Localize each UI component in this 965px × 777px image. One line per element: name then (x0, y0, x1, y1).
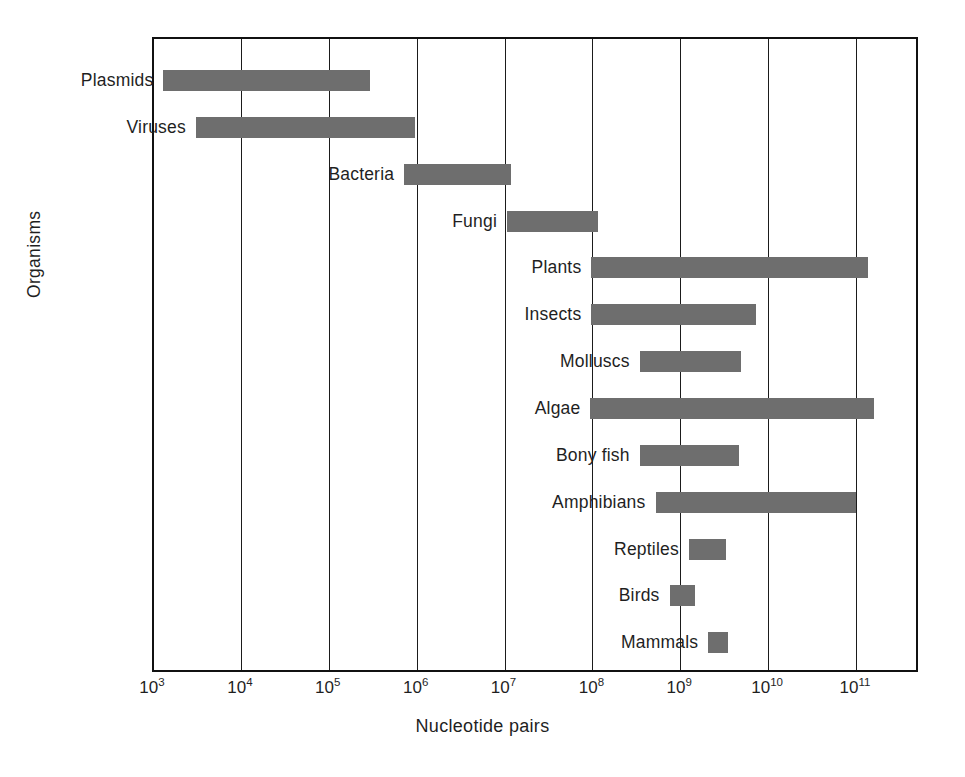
bar-label-bony-fish: Bony fish (0, 445, 630, 466)
bar-plasmids (163, 70, 370, 91)
x-tick-label-1e5: 105 (315, 678, 340, 698)
bar-label-reptiles: Reptiles (0, 539, 679, 560)
bar-mammals (708, 632, 727, 653)
bar-bony-fish (640, 445, 739, 466)
x-tick-label-1e11: 1011 (840, 678, 871, 698)
x-tick-label-1e10: 1010 (751, 678, 783, 698)
bar-label-fungi: Fungi (0, 211, 497, 232)
bar-birds (670, 585, 695, 606)
x-tick-label-1e6: 106 (403, 678, 428, 698)
bar-viruses (196, 117, 415, 138)
bar-label-mammals: Mammals (0, 632, 698, 653)
bar-label-birds: Birds (0, 585, 660, 606)
bar-algae (590, 398, 874, 419)
bar-label-bacteria: Bacteria (0, 164, 394, 185)
bar-label-insects: Insects (0, 304, 581, 325)
bar-plants (591, 257, 868, 278)
bar-label-plasmids: Plasmids (0, 70, 153, 91)
bar-reptiles (689, 539, 726, 560)
x-tick-label-1e3: 103 (139, 678, 164, 698)
bar-bacteria (404, 164, 510, 185)
x-tick-label-1e4: 104 (227, 678, 252, 698)
x-tick-label-1e8: 108 (579, 678, 604, 698)
x-tick-label-1e7: 107 (491, 678, 516, 698)
bar-label-viruses: Viruses (0, 117, 186, 138)
gridline-1e11 (856, 39, 857, 670)
bar-amphibians (656, 492, 856, 513)
gridline-1e10 (768, 39, 769, 670)
x-axis-tick-labels: 10310410510610710810910101011 (0, 672, 965, 712)
bar-label-molluscs: Molluscs (0, 351, 630, 372)
bar-label-amphibians: Amphibians (0, 492, 646, 513)
x-tick-label-1e9: 109 (667, 678, 692, 698)
bar-label-algae: Algae (0, 398, 580, 419)
bar-molluscs (640, 351, 741, 372)
chart-figure: PlasmidsVirusesBacteriaFungiPlantsInsect… (0, 0, 965, 777)
y-axis-title: Organisms (24, 211, 45, 298)
bar-label-plants: Plants (0, 257, 581, 278)
x-axis-title: Nucleotide pairs (0, 716, 965, 737)
bar-fungi (507, 211, 598, 232)
bar-insects (591, 304, 755, 325)
